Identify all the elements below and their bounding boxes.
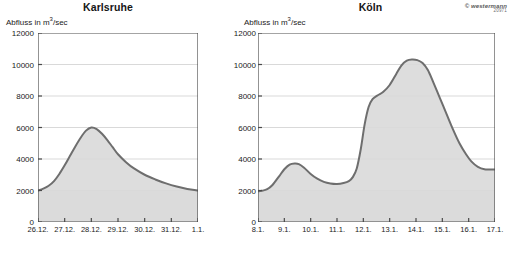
- x-tick-label: 28.12.: [81, 225, 102, 234]
- plot-svg-karlsruhe: [38, 33, 198, 222]
- y-tick-label: 6000: [238, 123, 256, 132]
- x-tick-label: 14.1.: [408, 225, 425, 234]
- x-tick-label: 31.12.: [161, 225, 182, 234]
- y-tick-label: 12000: [12, 29, 34, 38]
- y-axis-ticks-koeln: 020004000600080001000012000: [222, 33, 256, 222]
- chart-koeln: Köln Abfluss in m3/sec 02000400060008000…: [226, 0, 511, 261]
- y-axis-label-prefix: Abfluss in m: [6, 18, 50, 27]
- x-tick-label: 8.1.: [252, 225, 265, 234]
- y-tick-label: 2000: [16, 186, 34, 195]
- y-axis-ticks-karlsruhe: 020004000600080001000012000: [0, 33, 34, 222]
- y-tick-label: 2000: [238, 186, 256, 195]
- x-tick-label: 16.1.: [460, 225, 477, 234]
- y-axis-label-suffix: /sec: [291, 18, 306, 27]
- hydrograph-figure: © westermann 20971 Karlsruhe Abfluss in …: [0, 0, 511, 261]
- x-axis-ticks-koeln: 8.1.9.1.10.1.11.1.12.1.13.1.14.1.15.1.16…: [258, 225, 495, 239]
- y-tick-label: 12000: [234, 29, 256, 38]
- x-axis-ticks-karlsruhe: 26.12.27.12.28.12.29.12.30.12.31.12.1.1.: [38, 225, 198, 239]
- x-tick-label: 15.1.: [434, 225, 451, 234]
- x-tick-label: 29.12.: [108, 225, 129, 234]
- y-tick-label: 8000: [238, 92, 256, 101]
- x-tick-label: 26.12.: [28, 225, 49, 234]
- x-tick-label: 1.1.: [192, 225, 205, 234]
- y-axis-label-karlsruhe: Abfluss in m3/sec: [6, 18, 68, 27]
- y-tick-label: 6000: [16, 123, 34, 132]
- x-tick-label: 30.12.: [134, 225, 155, 234]
- x-tick-label: 13.1.: [381, 225, 398, 234]
- y-axis-label-prefix: Abfluss in m: [244, 18, 288, 27]
- plot-svg-koeln: [258, 33, 495, 222]
- y-tick-label: 10000: [234, 60, 256, 69]
- chart-karlsruhe: Karlsruhe Abfluss in m3/sec 020004000600…: [0, 0, 226, 261]
- x-tick-label: 17.1.: [487, 225, 504, 234]
- x-tick-label: 11.1.: [329, 225, 345, 234]
- x-tick-label: 27.12.: [54, 225, 75, 234]
- y-tick-label: 4000: [238, 155, 256, 164]
- x-tick-label: 9.1.: [278, 225, 291, 234]
- y-axis-label-koeln: Abfluss in m3/sec: [244, 18, 306, 27]
- chart-title-karlsruhe: Karlsruhe: [0, 1, 226, 13]
- plot-area-koeln: [258, 33, 495, 222]
- y-tick-label: 10000: [12, 60, 34, 69]
- y-tick-label: 8000: [16, 92, 34, 101]
- x-tick-label: 10.1.: [302, 225, 319, 234]
- y-tick-label: 4000: [16, 155, 34, 164]
- chart-title-koeln: Köln: [230, 1, 511, 13]
- plot-area-karlsruhe: [38, 33, 198, 222]
- y-axis-label-suffix: /sec: [53, 18, 68, 27]
- x-tick-label: 12.1.: [355, 225, 372, 234]
